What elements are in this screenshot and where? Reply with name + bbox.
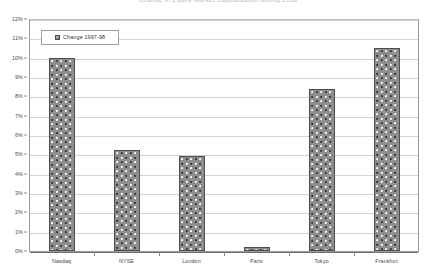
gridline — [30, 78, 418, 79]
y-axis-tick-label: 4% — [15, 171, 23, 177]
y-axis-tick-mark — [24, 193, 27, 194]
gridline — [30, 213, 418, 214]
gridline — [30, 233, 418, 234]
x-axis-tick-label: Nasdaq — [52, 258, 71, 264]
x-axis-tick-label: Paris — [250, 258, 263, 264]
y-axis-tick-label: 5% — [15, 151, 23, 157]
y-axis-tick-label: 1% — [15, 229, 23, 235]
gridline — [30, 155, 418, 156]
x-axis-tick-label: NYSE — [119, 258, 134, 264]
y-axis-tick-mark — [24, 77, 27, 78]
x-axis-tick-mark — [224, 252, 225, 256]
x-axis: NasdaqNYSELondonParisTokyoFrankfurt — [29, 258, 419, 272]
gridline — [30, 136, 418, 137]
y-axis-tick-label: 12% — [12, 16, 23, 22]
y-axis-tick-mark — [24, 96, 27, 97]
y-axis-tick-label: 9% — [15, 74, 23, 80]
x-axis-tick-mark — [94, 252, 95, 256]
chart-title: Change in Equity Market Capitalisation d… — [0, 0, 436, 3]
y-axis-tick-mark — [24, 154, 27, 155]
bar-chart: Change in Equity Market Capitalisation d… — [0, 0, 436, 280]
gridline — [30, 59, 418, 60]
x-axis-tick-label: London — [182, 258, 201, 264]
x-axis-tick-mark — [289, 252, 290, 256]
gridline — [30, 117, 418, 118]
y-axis-tick-label: 0% — [15, 248, 23, 254]
y-axis-tick-label: 7% — [15, 113, 23, 119]
gridline — [30, 97, 418, 98]
y-axis-tick-mark — [24, 173, 27, 174]
y-axis-tick-mark — [24, 38, 27, 39]
y-axis: 0%1%2%3%4%5%6%7%8%9%10%11%12% — [0, 19, 27, 252]
y-axis-tick-label: 3% — [15, 190, 23, 196]
x-axis-tick-label: Frankfurt — [375, 258, 397, 264]
x-axis-tick-mark — [159, 252, 160, 256]
gridline — [30, 20, 418, 21]
y-axis-tick-label: 8% — [15, 93, 23, 99]
x-axis-tick-label: Tokyo — [314, 258, 329, 264]
y-axis-tick-label: 10% — [12, 55, 23, 61]
plot-area — [29, 19, 419, 252]
y-axis-tick-mark — [24, 115, 27, 116]
gridline — [30, 175, 418, 176]
y-axis-tick-mark — [24, 231, 27, 232]
y-axis-tick-mark — [24, 212, 27, 213]
y-axis-tick-mark — [24, 135, 27, 136]
legend-label: Change 1997-98 — [63, 34, 105, 40]
chart-legend: Change 1997-98 — [41, 30, 119, 45]
y-axis-tick-label: 6% — [15, 132, 23, 138]
legend-swatch-icon — [55, 35, 60, 40]
y-axis-tick-mark — [24, 57, 27, 58]
y-axis-tick-label: 2% — [15, 209, 23, 215]
x-axis-tick-mark — [354, 252, 355, 256]
y-axis-tick-mark — [24, 19, 27, 20]
y-axis-tick-mark — [24, 251, 27, 252]
gridline — [30, 194, 418, 195]
y-axis-tick-label: 11% — [12, 35, 23, 41]
